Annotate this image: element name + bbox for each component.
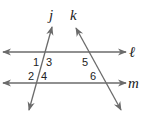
line-k: [76, 28, 121, 110]
label-j: j: [47, 7, 53, 23]
angle-4: 4: [41, 70, 47, 82]
angle-3: 3: [46, 56, 52, 68]
label-m: m: [128, 75, 139, 91]
angle-6: 6: [90, 70, 96, 82]
parallel-lines-diagram: j k ℓ m 1 3 5 2 4 6: [0, 0, 146, 116]
line-j: [29, 27, 52, 110]
label-k: k: [70, 7, 77, 23]
angle-1: 1: [33, 56, 39, 68]
angle-2: 2: [28, 70, 34, 82]
label-l: ℓ: [129, 44, 135, 60]
angle-5: 5: [82, 56, 88, 68]
